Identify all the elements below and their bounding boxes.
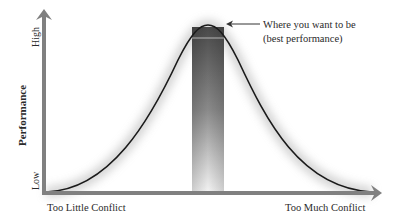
x-axis-left-label: Too Little Conflict — [47, 202, 126, 213]
annotation-line2: (best performance) — [263, 33, 343, 45]
performance-conflict-diagram: Where you want to be (best performance) … — [0, 0, 405, 223]
y-axis-title: Performance — [16, 85, 28, 146]
y-axis-high-label: High — [30, 27, 41, 47]
annotation-line1: Where you want to be — [263, 19, 356, 30]
optimal-band-shade — [192, 27, 224, 193]
x-axis-right-label: Too Much Conflict — [285, 202, 365, 213]
y-axis-low-label: Low — [30, 171, 41, 190]
